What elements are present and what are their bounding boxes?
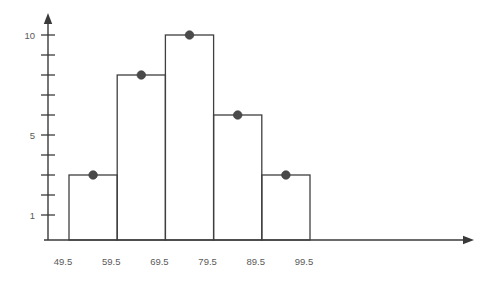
data-point-dot	[185, 31, 194, 40]
y-axis-tick-label: 1	[30, 210, 35, 221]
histogram-bar	[117, 75, 165, 240]
histogram-bar	[165, 35, 213, 240]
y-axis-tick-label: 5	[30, 130, 35, 141]
data-point-dot	[137, 71, 146, 80]
x-axis-tick-label: 69.5	[150, 256, 169, 267]
y-axis-arrow-icon	[44, 13, 52, 24]
x-axis-tick-label: 99.5	[295, 256, 314, 267]
y-axis-tick-labels: 1051	[24, 30, 35, 221]
data-point-dot	[233, 111, 242, 120]
x-axis-tick-labels: 49.559.569.579.589.599.5	[54, 256, 314, 267]
y-axis-group	[44, 13, 52, 240]
histogram-bar	[262, 175, 310, 240]
x-axis-tick-label: 59.5	[102, 256, 121, 267]
histogram-bar	[69, 175, 117, 240]
data-point-dot	[282, 171, 291, 180]
x-axis-tick-label: 49.5	[54, 256, 73, 267]
midpoint-dots	[89, 31, 290, 180]
x-axis-tick-label: 79.5	[198, 256, 217, 267]
histogram-chart: 1051 49.559.569.579.589.599.5	[0, 0, 497, 281]
histogram-bar	[214, 115, 262, 240]
histogram-bars	[69, 35, 310, 240]
data-point-dot	[89, 171, 98, 180]
x-axis-arrow-icon	[463, 236, 474, 244]
x-axis-tick-label: 89.5	[247, 256, 266, 267]
chart-canvas: 1051 49.559.569.579.589.599.5	[0, 0, 497, 281]
y-axis-tick-label: 10	[24, 30, 35, 41]
